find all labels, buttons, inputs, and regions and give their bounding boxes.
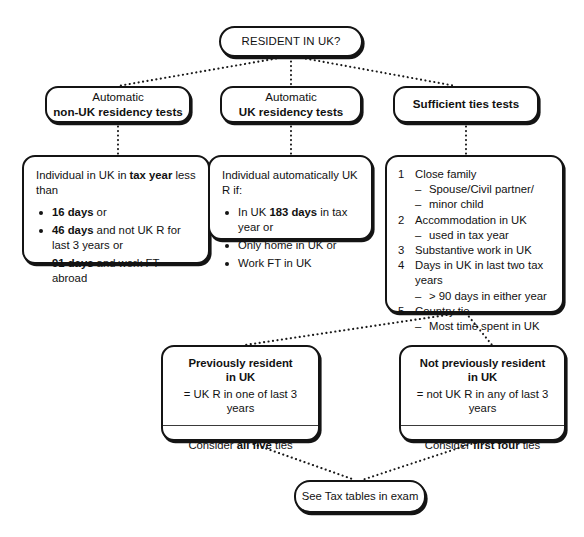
node-see-tax-tables[interactable]: See Tax tables in exam [294,480,426,513]
list-item: Work FT in UK [222,256,359,271]
previously-resident-action: Consider all five ties [163,426,318,464]
tie-3-text: Days in UK in last two tax years [415,259,543,286]
flowchart-canvas: RESIDENT IN UK? Automatic non-UK residen… [0,0,584,537]
list-item: 46 days and not UK R for last 3 years or [36,223,196,253]
ties-list: 1 Close family Spouse/Civil partner/ -mi… [398,167,552,334]
uk-bullet-0-bold: 183 days [269,206,317,218]
list-item: 16 days or [36,205,196,220]
node-not-previously-resident[interactable]: Not previously resident in UK = not UK R… [399,345,566,441]
uk-bullet-list: In UK 183 days in tax year or Only home … [222,205,359,271]
node-sufficient-ties-header[interactable]: Sufficient ties tests [393,86,539,123]
uk-header-line1: Automatic [265,90,317,105]
tie-1-text: Accommodation in UK [415,214,527,226]
tie-4-number: 5 [398,304,410,319]
uk-bullet-2-pre: Work FT in UK [238,257,312,269]
list-item: 5 Country tie Most time spent in UK [398,304,552,334]
tie-4-text: Country tie [415,305,470,317]
tie-3-sub-0: > 90 days in either year [415,289,552,304]
tie-0-text: Close family [415,168,477,180]
list-item: 2 Accommodation in UK used in tax year [398,213,552,243]
non-uk-bullet-0-rest: or [93,206,106,218]
tie-0-sub-0: Spouse/Civil partner/ [415,182,552,197]
uk-bullet-1-pre: Only home in UK or [238,239,337,251]
not-previously-resident-definition: = not UK R in any of last 3 years [411,387,554,416]
tie-0-sub-1: -minor child [415,197,552,212]
final-label: See Tax tables in exam [302,489,419,503]
node-automatic-non-uk-body[interactable]: Individual in UK in tax year less than 1… [22,155,210,264]
list-item: 91 days and work FT abroad [36,256,196,286]
not-previously-resident-action-post: ties [520,439,541,451]
tie-2-text: Substantive work in UK [415,244,532,256]
not-previously-resident-action: Consider first four ties [401,426,564,464]
list-item: 3 Substantive work in UK [398,243,552,258]
non-uk-bullet-1-bold: 46 days [52,224,93,236]
non-uk-bullet-list: 16 days or 46 days and not UK R for last… [36,205,196,286]
list-item: 1 Close family Spouse/Civil partner/ -mi… [398,167,552,213]
tie-2-number: 3 [398,243,410,258]
previously-resident-action-post: ties [272,439,293,451]
node-resident-in-uk[interactable]: RESIDENT IN UK? [219,26,363,57]
node-automatic-uk-body[interactable]: Individual automatically UK R if: In UK … [208,155,373,240]
uk-bullet-0-pre: In UK [238,206,269,218]
node-automatic-non-uk-header[interactable]: Automatic non-UK residency tests [45,86,191,123]
connector-root-to-ties [297,57,456,86]
tie-1-sub-0: used in tax year [415,228,552,243]
previously-resident-title-1: Previously resident [173,356,308,370]
non-uk-lead: Individual in UK in tax year less than [36,168,196,198]
node-sufficient-ties-body[interactable]: 1 Close family Spouse/Civil partner/ -mi… [385,155,564,313]
previously-resident-header: Previously resident in UK = UK R in one … [163,347,318,425]
tie-0-sub-1-text: minor child [429,198,484,210]
node-automatic-uk-header[interactable]: Automatic UK residency tests [220,86,362,123]
not-previously-resident-action-bold: first four [473,439,519,451]
ties-header-line2: Sufficient ties tests [413,97,519,112]
not-previously-resident-title-1: Not previously resident [411,356,554,370]
list-item: 4 Days in UK in last two tax years > 90 … [398,258,552,304]
not-previously-resident-action-pre: Consider [425,439,473,451]
previously-resident-action-pre: Consider [188,439,236,451]
uk-header-line2: UK residency tests [239,105,343,120]
non-uk-bullet-0-bold: 16 days [52,206,93,218]
non-uk-bullet-2-bold: 91 days [52,257,93,269]
not-previously-resident-title-2: in UK [411,370,554,384]
tie-0-number: 1 [398,167,410,182]
list-item: Only home in UK or [222,238,359,253]
uk-lead: Individual automatically UK R if: [222,168,359,198]
non-uk-lead-a: Individual in UK in [36,169,130,181]
node-previously-resident[interactable]: Previously resident in UK = UK R in one … [161,345,320,441]
tie-1-number: 2 [398,213,410,228]
non-uk-header-line1: Automatic [92,90,144,105]
previously-resident-definition: = UK R in one of last 3 years [173,387,308,416]
tie-4-sub-0: Most time spent in UK [415,319,552,334]
connector-root-to-non-uk [118,57,285,86]
list-item: In UK 183 days in tax year or [222,205,359,235]
non-uk-lead-bold: tax year [130,169,173,181]
tie-3-number: 4 [398,258,410,273]
non-uk-header-line2: non-UK residency tests [53,105,183,120]
not-previously-resident-header: Not previously resident in UK = not UK R… [401,347,564,425]
root-label: RESIDENT IN UK? [242,34,341,49]
previously-resident-title-2: in UK [173,370,308,384]
previously-resident-action-bold: all five [237,439,272,451]
